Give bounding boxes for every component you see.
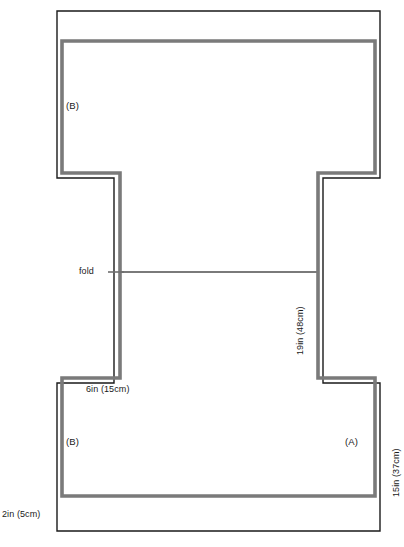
fold-label: fold xyxy=(79,267,94,276)
seam-line-outline xyxy=(62,41,375,496)
piece-label-b-lower: (B) xyxy=(66,437,79,447)
body-length-label: 15in (37cm) xyxy=(392,448,401,497)
shoulder-width-label: 6in (15cm) xyxy=(86,385,130,394)
piece-label-a: (A) xyxy=(345,437,358,447)
piece-label-b-upper: (B) xyxy=(66,101,79,111)
pattern-drawing xyxy=(0,0,404,547)
hem-allowance-label: 2in (5cm) xyxy=(2,510,40,519)
pattern-diagram: (B) fold 6in (15cm) 19in (48cm) (B) (A) … xyxy=(0,0,404,547)
sleeve-depth-label: 19in (48cm) xyxy=(296,306,305,355)
